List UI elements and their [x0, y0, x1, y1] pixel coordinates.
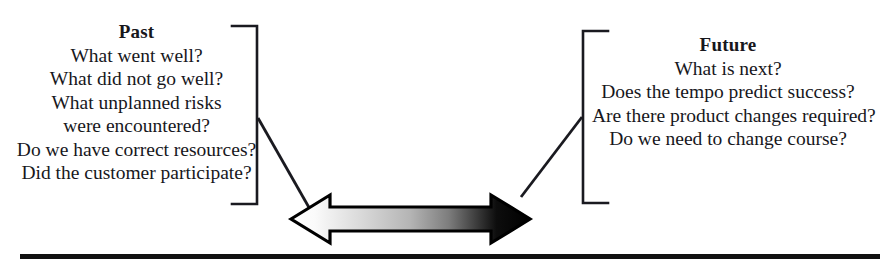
- double-headed-gradient-arrow: [291, 195, 530, 243]
- past-question-2: What did not go well?: [14, 67, 259, 91]
- future-question-1: What is next?: [592, 57, 864, 81]
- future-question-4: Do we need to change course?: [592, 127, 864, 151]
- past-leader-line: [258, 118, 311, 211]
- past-heading: Past: [14, 20, 259, 44]
- past-question-5: Did the customer participate?: [14, 161, 259, 185]
- past-question-3-line-1: What unplanned risks: [14, 91, 259, 115]
- future-question-3: Are there product changes required?: [592, 104, 864, 128]
- past-question-1: What went well?: [14, 44, 259, 68]
- future-question-2: Does the tempo predict success?: [592, 80, 864, 104]
- future-leader-line: [521, 117, 582, 197]
- future-heading: Future: [592, 33, 864, 57]
- diagram-canvas: Past What went well? What did not go wel…: [0, 0, 896, 269]
- past-text-block: Past What went well? What did not go wel…: [14, 20, 259, 185]
- past-question-3-line-2: were encountered?: [14, 114, 259, 138]
- bottom-rule: [20, 254, 880, 259]
- future-text-block: Future What is next? Does the tempo pred…: [592, 33, 864, 151]
- past-question-4: Do we have correct resources?: [14, 138, 259, 162]
